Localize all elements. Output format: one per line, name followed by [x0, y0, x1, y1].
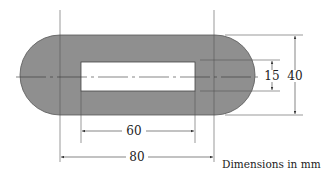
dim-40-label: 40: [287, 69, 302, 83]
drawing-canvas: 60 80 15 40 Dimensions in mm: [0, 0, 325, 184]
dim-60-label: 60: [126, 124, 141, 138]
slot: [81, 62, 195, 91]
dim-15-label: 15: [264, 69, 279, 83]
units-note: Dimensions in mm: [222, 158, 321, 170]
dim-80-label: 80: [129, 150, 144, 164]
